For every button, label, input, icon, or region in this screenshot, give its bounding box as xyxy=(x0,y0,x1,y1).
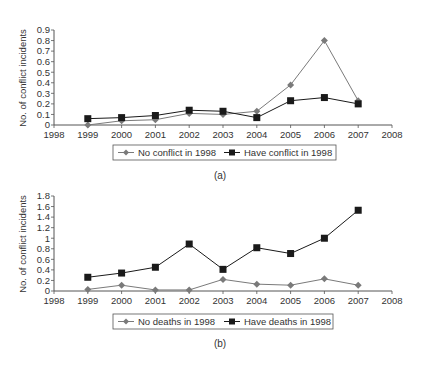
series-group xyxy=(84,37,361,128)
panel-label: (a) xyxy=(214,170,226,181)
data-point-diamond xyxy=(287,282,294,289)
legend-diamond-icon xyxy=(123,150,129,156)
y-tick-label: 0.8 xyxy=(37,243,50,254)
y-tick-label: 0.3 xyxy=(37,88,50,99)
y-tick-label: 1.4 xyxy=(37,211,50,222)
y-tick-label: 0.9 xyxy=(37,24,50,35)
y-tick-label: 1 xyxy=(45,233,50,244)
y-axis-title: No. of conflict incidents xyxy=(17,195,28,293)
chart-panel-b: No. of conflict incidents 00.20.40.60.81… xyxy=(17,190,403,349)
data-point-square xyxy=(220,266,227,273)
legend-square-icon xyxy=(229,150,235,156)
data-point-square xyxy=(321,235,328,242)
data-point-diamond xyxy=(186,286,193,293)
x-tick-label: 2001 xyxy=(145,295,166,306)
x-tick-label: 2006 xyxy=(314,129,335,140)
data-point-square xyxy=(253,114,260,121)
y-tick-labels: 00.20.40.60.811.21.41.61.8 xyxy=(37,190,50,296)
x-tick-label: 2000 xyxy=(111,295,132,306)
x-tick-labels: 1998199920002001200220032004200520062007… xyxy=(43,295,402,306)
data-point-square xyxy=(321,94,328,101)
x-tick-label: 2008 xyxy=(381,129,402,140)
x-tick-label: 2002 xyxy=(179,129,200,140)
data-point-diamond xyxy=(253,281,260,288)
legend: No conflict in 1998 Have conflict in 199… xyxy=(113,145,336,160)
legend: No deaths in 1998 Have deaths in 1998 xyxy=(113,314,333,329)
legend-diamond-icon xyxy=(123,319,129,325)
y-tick-label: 0.6 xyxy=(37,254,50,265)
data-point-square xyxy=(355,207,362,214)
data-point-diamond xyxy=(118,282,125,289)
y-tick-label: 0.4 xyxy=(37,264,50,275)
x-tick-label: 2007 xyxy=(348,295,369,306)
y-tick-label: 0.6 xyxy=(37,56,50,67)
data-point-diamond xyxy=(84,122,91,129)
data-point-square xyxy=(355,100,362,107)
x-tick-label: 2005 xyxy=(280,129,301,140)
data-point-square xyxy=(253,244,260,251)
x-tick-label: 2002 xyxy=(179,295,200,306)
y-tick-label: 1.6 xyxy=(37,201,50,212)
data-point-square xyxy=(118,270,125,277)
legend-label-1: Have conflict in 1998 xyxy=(244,147,332,158)
y-tick-label: 0.4 xyxy=(37,77,50,88)
series-group xyxy=(84,207,361,294)
legend-label-1: Have deaths in 1998 xyxy=(244,316,331,327)
x-tick-labels: 1998199920002001200220032004200520062007… xyxy=(43,129,402,140)
x-tick-label: 1999 xyxy=(77,129,98,140)
y-tick-label: 0.5 xyxy=(37,67,50,78)
y-tick-label: 0.1 xyxy=(37,109,50,120)
y-tick-label: 1.2 xyxy=(37,222,50,233)
data-point-diamond xyxy=(321,275,328,282)
y-axis-title: No. of conflict incidents xyxy=(17,29,28,127)
x-tick-label: 2004 xyxy=(246,129,267,140)
data-point-square xyxy=(220,108,227,115)
x-tick-label: 1998 xyxy=(43,129,64,140)
data-point-square xyxy=(152,264,159,271)
x-tick-label: 2000 xyxy=(111,129,132,140)
x-tick-label: 2003 xyxy=(212,129,233,140)
data-point-square xyxy=(84,274,91,281)
x-tick-label: 2008 xyxy=(381,295,402,306)
data-point-diamond xyxy=(355,282,362,289)
x-tick-label: 1999 xyxy=(77,295,98,306)
data-point-square xyxy=(287,250,294,257)
data-point-diamond xyxy=(84,286,91,293)
x-tick-label: 2001 xyxy=(145,129,166,140)
data-point-square xyxy=(186,107,193,114)
panel-label: (b) xyxy=(214,338,226,349)
y-tick-label: 0.7 xyxy=(37,45,50,56)
data-point-diamond xyxy=(220,276,227,283)
figure: No. of conflict incidents 00.10.20.30.40… xyxy=(0,0,422,367)
y-tick-label: 0.8 xyxy=(37,35,50,46)
data-point-square xyxy=(84,115,91,122)
x-tick-label: 2007 xyxy=(348,129,369,140)
legend-label-0: No deaths in 1998 xyxy=(138,316,215,327)
data-point-square xyxy=(118,114,125,121)
x-tick-label: 1998 xyxy=(43,295,64,306)
chart-panel-a: No. of conflict incidents 00.10.20.30.40… xyxy=(17,24,403,181)
y-tick-label: 1.8 xyxy=(37,190,50,201)
y-tick-label: 0.2 xyxy=(37,275,50,286)
data-point-square xyxy=(152,112,159,119)
x-tick-label: 2005 xyxy=(280,295,301,306)
x-tick-label: 2003 xyxy=(212,295,233,306)
data-point-square xyxy=(287,97,294,104)
y-tick-label: 0.2 xyxy=(37,98,50,109)
data-point-diamond xyxy=(152,286,159,293)
legend-square-icon xyxy=(229,319,235,325)
x-tick-label: 2006 xyxy=(314,295,335,306)
data-point-square xyxy=(186,241,193,248)
x-tick-label: 2004 xyxy=(246,295,267,306)
legend-label-0: No conflict in 1998 xyxy=(138,147,216,158)
y-tick-labels: 00.10.20.30.40.50.60.70.80.9 xyxy=(37,24,50,130)
